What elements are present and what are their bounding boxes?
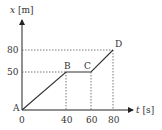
x-tick-label: 80: [108, 115, 120, 125]
x-tick-label: 0: [19, 115, 25, 125]
point-label-a: A: [12, 103, 20, 113]
point-label-d: D: [115, 39, 122, 49]
point-label-c: C: [84, 61, 91, 71]
x-tick-label: 40: [61, 115, 73, 125]
y-tick-label: 80: [7, 45, 19, 55]
point-label-b: B: [64, 61, 71, 71]
y-tick-label: 50: [7, 67, 19, 77]
y-axis-label: x [m]: [10, 5, 34, 15]
x-tick-label: 60: [86, 115, 98, 125]
guide-lines: [22, 50, 113, 110]
position-time-chart: x [m] t [s] 80 50 0 40 60 80 A B C D: [0, 0, 162, 130]
x-axis-label: t [s]: [136, 105, 154, 115]
position-line: [22, 50, 113, 110]
